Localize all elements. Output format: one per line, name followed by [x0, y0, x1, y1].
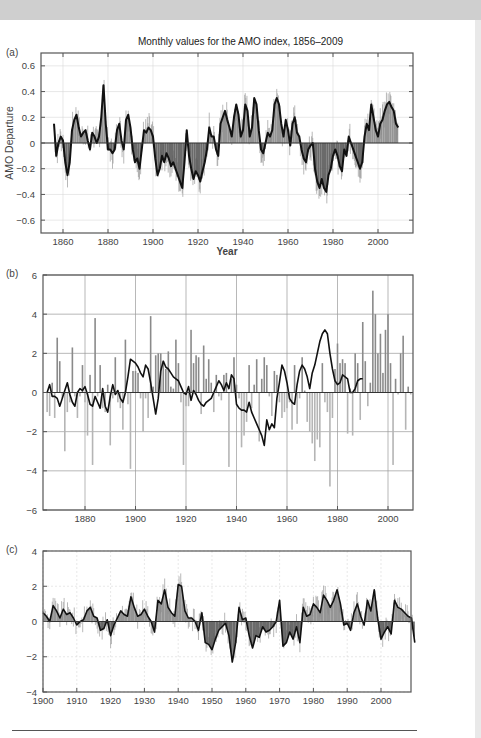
- x-tick-label: 1880: [74, 513, 95, 524]
- y-tick-label: −0.6: [16, 215, 35, 226]
- x-tick-label: 1960: [235, 695, 256, 706]
- x-tick-label: 2000: [367, 236, 388, 247]
- y-tick-label: −0.2: [16, 163, 35, 174]
- x-tick-label: 1910: [66, 695, 87, 706]
- x-tick-label: 1900: [32, 695, 53, 706]
- plot-c: −4−2024190019101920193019401950196019701…: [26, 546, 415, 707]
- y-tick-label: −6: [26, 505, 37, 516]
- x-tick-label: 2000: [370, 695, 391, 706]
- x-tick-label: 1980: [303, 695, 324, 706]
- y-tick-label: 4: [32, 309, 37, 320]
- x-axis-label: Year: [216, 246, 237, 257]
- y-tick-label: 0: [30, 138, 35, 149]
- x-tick-label: 1860: [52, 236, 73, 247]
- chart-panel-a: −0.6−0.4−0.200.20.40.6186018801900192019…: [0, 0, 481, 738]
- y-tick-label: 0.6: [22, 60, 35, 71]
- y-tick-label: 0.2: [22, 112, 35, 123]
- x-tick-label: 1950: [201, 695, 222, 706]
- y-axis-label: AMO Departure: [3, 106, 15, 180]
- footer-rule: [12, 730, 417, 731]
- x-tick-label: 1980: [322, 236, 343, 247]
- x-tick-label: 1930: [134, 695, 155, 706]
- y-tick-label: 2: [32, 348, 37, 359]
- y-tick-label: 6: [32, 270, 37, 281]
- x-tick-label: 1980: [327, 513, 348, 524]
- x-tick-label: 1960: [277, 236, 298, 247]
- x-tick-label: 1920: [175, 513, 196, 524]
- x-tick-label: 2000: [377, 513, 398, 524]
- x-tick-label: 1940: [168, 695, 189, 706]
- x-tick-label: 1920: [100, 695, 121, 706]
- x-tick-label: 1920: [187, 236, 208, 247]
- x-tick-label: 1970: [269, 695, 290, 706]
- y-tick-label: −2: [26, 426, 37, 437]
- x-tick-label: 1900: [142, 236, 163, 247]
- x-tick-label: 1990: [337, 695, 358, 706]
- y-tick-label: −0.4: [16, 189, 35, 200]
- y-tick-label: 0: [32, 616, 37, 627]
- x-tick-label: 1960: [276, 513, 297, 524]
- y-tick-label: 2: [32, 581, 37, 592]
- plot-a: −0.6−0.4−0.200.20.40.6186018801900192019…: [3, 53, 413, 257]
- y-tick-label: −4: [26, 465, 37, 476]
- plot-b: −6−4−202461880190019201940196019802000: [26, 270, 413, 525]
- y-tick-label: 0.4: [22, 86, 35, 97]
- x-tick-label: 1940: [226, 513, 247, 524]
- x-tick-label: 1900: [125, 513, 146, 524]
- y-tick-label: 4: [32, 546, 37, 557]
- x-tick-label: 1880: [97, 236, 118, 247]
- y-tick-label: 0: [32, 387, 37, 398]
- y-tick-label: −2: [26, 651, 37, 662]
